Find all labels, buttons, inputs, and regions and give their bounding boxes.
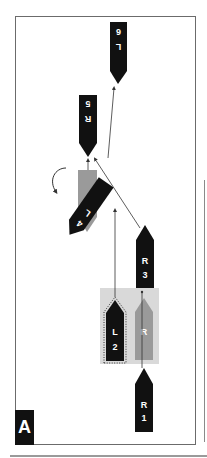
boat-r5-letter: R: [84, 114, 91, 124]
boat-r3: R 3: [136, 225, 154, 288]
boat-r1-letter: R: [141, 400, 148, 410]
boat-r5-number: 5: [85, 99, 90, 109]
boat-r1-number: 1: [141, 413, 146, 423]
boat-r3-number: 3: [142, 270, 147, 280]
boat-l2-number: 2: [112, 342, 117, 352]
path-r1-endpoint: [141, 291, 143, 293]
boat-r3-letter: R: [142, 256, 149, 266]
boat-r1: R 1: [135, 368, 153, 432]
boat-l6-letter: L: [115, 42, 121, 52]
panel-label: A: [15, 410, 34, 445]
boat-l6: 6 L: [110, 22, 127, 84]
path-to-l6: [108, 88, 114, 158]
boat-l6-number: 6: [116, 27, 121, 37]
boat-diagram: R L 2 R 1 R 3 L 4 5 R 6: [0, 0, 207, 458]
boat-l2-letter: L: [112, 327, 118, 337]
boat-r5: 5 R: [79, 95, 97, 157]
rotation-arrow-icon: [53, 168, 66, 192]
